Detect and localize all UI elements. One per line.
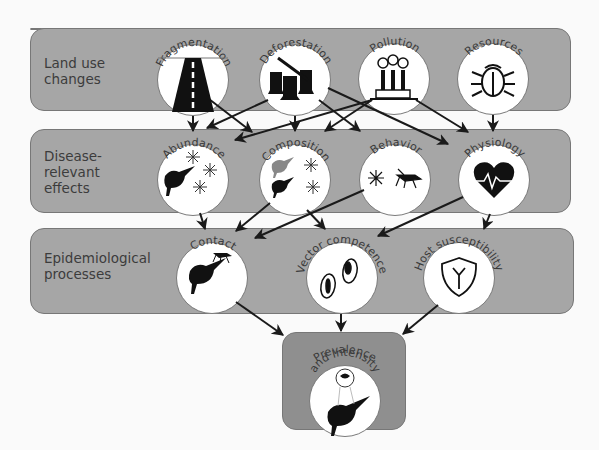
road-icon	[158, 58, 228, 112]
parasite-cells-icon	[319, 258, 359, 299]
resources-label: Resources	[462, 35, 526, 58]
host-susceptibility-label: Host susceptibility	[412, 233, 506, 273]
pollution-label: Pollution	[367, 35, 422, 55]
arrows-epi-to-prevalence	[236, 302, 438, 335]
bird-mosquito-icon	[189, 253, 232, 294]
deforestation-label: Deforestation	[257, 36, 335, 66]
vector-competence-label: Vector competence	[294, 233, 390, 276]
birds-mosquitoes-icon	[272, 157, 320, 198]
beetle-icon	[471, 65, 515, 96]
arrows-land-to-effects	[193, 88, 493, 144]
infected-bird-icon	[328, 369, 371, 436]
diagram-overlay: Fragmentation Deforestation Pollution Re…	[0, 0, 599, 450]
contact-label: Contact	[188, 234, 239, 254]
physiology-label: Physiology	[462, 136, 528, 161]
behavior-label: Behavior	[368, 136, 425, 157]
heartbeat-icon	[470, 162, 518, 198]
factory-icon	[370, 55, 418, 99]
antibody-shield-icon	[442, 258, 476, 296]
tree-stumps-icon	[268, 58, 314, 100]
arrows-effects-to-epi	[200, 190, 490, 238]
composition-label: Composition	[259, 136, 333, 164]
mosquitoes-icon	[368, 169, 421, 188]
